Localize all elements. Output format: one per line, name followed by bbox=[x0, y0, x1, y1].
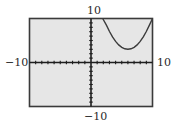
xmin-label: −10 bbox=[5, 57, 28, 68]
xmax-label: 10 bbox=[157, 57, 171, 68]
ymax-label: 10 bbox=[87, 5, 101, 16]
ymin-label: −10 bbox=[84, 111, 107, 122]
